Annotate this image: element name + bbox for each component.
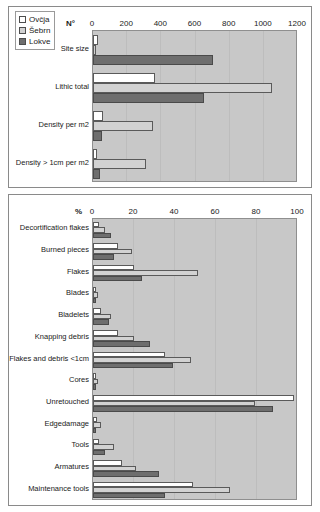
x-tick-label: 20: [129, 207, 138, 216]
x-tick-label: 0: [90, 19, 94, 28]
bar-lokve: [93, 93, 204, 103]
bar-lokve: [93, 428, 96, 434]
category-label: Density per m2: [9, 121, 92, 130]
chart-panel-percent: % 020406080100 Decortification flakesBur…: [8, 194, 312, 506]
gridline: [229, 31, 230, 181]
category-label: Flakes: [9, 268, 92, 277]
x-tick-label: 0: [90, 207, 94, 216]
legend-swatch-ovcja: [19, 16, 26, 23]
legend-swatch-sebrn: [19, 27, 26, 34]
category-label: Blades: [9, 289, 92, 298]
x-tick-label: 100: [290, 207, 303, 216]
category-label: Lithic total: [9, 83, 92, 92]
plot-area-percent: [92, 218, 297, 500]
bar-ebrn: [93, 83, 272, 93]
category-label: Maintenance tools: [9, 485, 92, 494]
gridline: [263, 31, 264, 181]
gridline: [215, 219, 216, 499]
category-label: Edgedamage: [9, 420, 92, 429]
x-tick-label: 200: [119, 19, 132, 28]
bar-lokve: [93, 363, 173, 369]
x-tick-label: 1200: [288, 19, 306, 28]
x-tick-label: 60: [211, 207, 220, 216]
legend-item-lokve: Lokve: [19, 36, 50, 47]
legend-item-sebrn: Šebrn: [19, 25, 50, 36]
category-label: Armatures: [9, 463, 92, 472]
bar-lokve: [93, 406, 273, 412]
category-label: Unretouched: [9, 398, 92, 407]
bar-lokve: [93, 471, 159, 477]
bar-lokve: [93, 384, 96, 390]
x-tick-label: 400: [154, 19, 167, 28]
bar-lokve: [93, 276, 142, 282]
bar-ovja: [93, 149, 97, 159]
category-label: Cores: [9, 376, 92, 385]
plot-area-counts: [92, 30, 297, 182]
legend-label-sebrn: Šebrn: [29, 25, 50, 36]
x-tick-label: 800: [222, 19, 235, 28]
gridline: [195, 31, 196, 181]
category-label: Decortification flakes: [9, 224, 92, 233]
gridline: [160, 31, 161, 181]
legend-item-ovcja: Ovčja: [19, 14, 50, 25]
legend-label-ovcja: Ovčja: [29, 14, 49, 25]
x-axis-unit-bottom: %: [75, 207, 82, 216]
x-tick-label: 80: [252, 207, 261, 216]
chart-panel-counts: Ovčja Šebrn Lokve N° 0200400600800100012…: [8, 6, 312, 188]
category-label: Burned pieces: [9, 246, 92, 255]
category-label: Tools: [9, 441, 92, 450]
x-tick-label: 40: [170, 207, 179, 216]
bar-lokve: [93, 319, 109, 325]
legend-label-lokve: Lokve: [29, 36, 50, 47]
y-axis-labels-top: Site sizeLithic totalDensity per m2Densi…: [9, 30, 92, 182]
bar-lokve: [93, 341, 150, 347]
bar-lokve: [93, 131, 102, 141]
category-label: Density > 1cm per m2: [9, 159, 92, 168]
bar-lokve: [93, 55, 213, 65]
bar-lokve: [93, 233, 111, 239]
bar-ovja: [93, 111, 103, 121]
bar-ebrn: [93, 45, 96, 55]
category-label: Bladelets: [9, 311, 92, 320]
y-axis-labels-bottom: Decortification flakesBurned piecesFlake…: [9, 218, 92, 500]
bar-lokve: [93, 450, 105, 456]
x-tick-label: 1000: [254, 19, 272, 28]
category-label: Flakes and debris <1cm: [9, 355, 92, 364]
bar-ebrn: [93, 121, 153, 131]
bar-lokve: [93, 169, 100, 179]
bar-lokve: [93, 493, 165, 499]
gridline: [256, 219, 257, 499]
bar-lokve: [93, 298, 96, 304]
bar-ovja: [93, 35, 98, 45]
x-tick-label: 600: [188, 19, 201, 28]
x-axis-unit-top: N°: [66, 19, 75, 28]
figure-root: Ovčja Šebrn Lokve N° 0200400600800100012…: [0, 0, 320, 512]
bar-lokve: [93, 254, 114, 260]
bar-ovja: [93, 73, 155, 83]
category-label: Knapping debris: [9, 333, 92, 342]
bar-ebrn: [93, 159, 146, 169]
chart-legend: Ovčja Šebrn Lokve: [15, 11, 55, 50]
legend-swatch-lokve: [19, 38, 26, 45]
